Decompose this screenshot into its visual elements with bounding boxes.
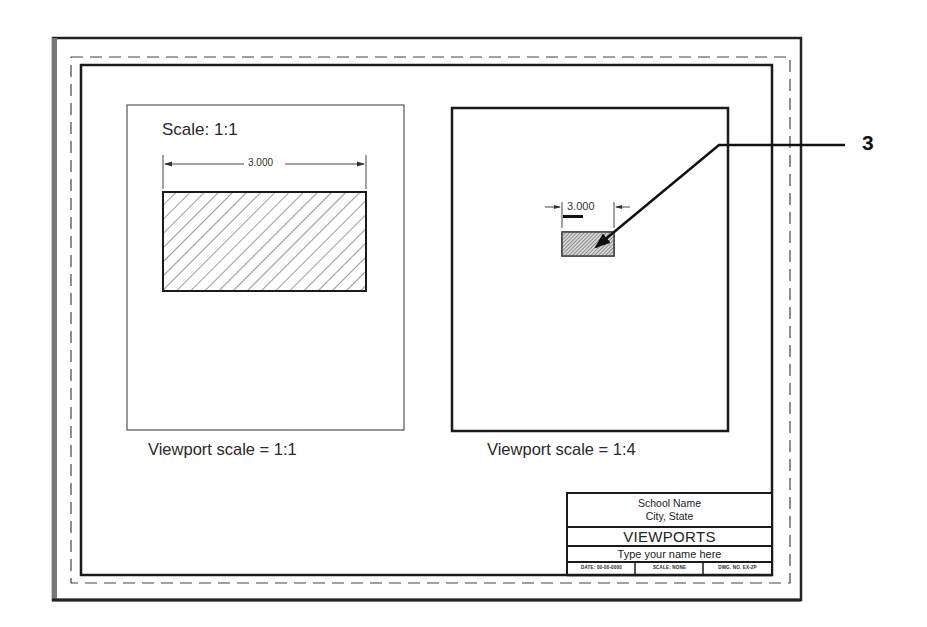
viewport-label-left: Viewport scale = 1:1 — [148, 441, 297, 458]
title-block-scale: SCALE: NONE — [636, 566, 703, 571]
dimension-text-left: 3.000 — [246, 158, 275, 168]
title-block-city: City, State — [568, 511, 771, 522]
title-block-school: School Name — [568, 498, 771, 509]
dimension-text-right: 3.000 — [567, 201, 595, 212]
viewport-label-right: Viewport scale = 1:4 — [487, 441, 636, 458]
hatched-rectangle-large — [163, 192, 366, 291]
title-block-name: Type your name here — [568, 549, 771, 560]
callout-number: 3 — [862, 132, 874, 153]
drawing-lines — [0, 0, 927, 627]
title-block-date: DATE: 00-00-0000 — [568, 566, 635, 571]
scale-note: Scale: 1:1 — [162, 121, 238, 138]
title-block-title: VIEWPORTS — [568, 529, 771, 544]
title-block-dwg-no: DWG. NO. EX-2P — [704, 566, 771, 571]
drawing-canvas: Scale: 1:1 3.000 Viewport scale = 1:1 3.… — [0, 0, 927, 627]
